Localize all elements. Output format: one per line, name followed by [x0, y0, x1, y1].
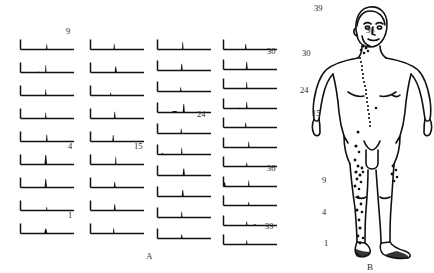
trace-svg [88, 33, 146, 52]
panel-b-body-diagram: 3936302415941B [300, 0, 434, 273]
trace-svg [155, 138, 213, 157]
trace-svg [221, 111, 279, 130]
neck-left [358, 46, 362, 58]
trace-svg [221, 131, 279, 150]
lesion-dot [358, 219, 361, 222]
main-peak-1 [246, 240, 248, 244]
lesion-dot [363, 81, 365, 83]
trace-panel-2-4 [88, 102, 146, 121]
trace-panel-3-8 [155, 180, 213, 199]
trace-svg [155, 75, 213, 94]
trace-svg [155, 201, 213, 220]
eyebrow-left [364, 23, 371, 24]
groin-line [364, 141, 380, 150]
main-peak-1 [246, 61, 248, 69]
main-peak-1 [113, 228, 115, 233]
trace-panel-3-10 [155, 222, 213, 241]
lesion-dot [360, 49, 363, 52]
lesion-dot [358, 188, 361, 191]
trace-svg [155, 33, 213, 52]
main-peak-1 [182, 42, 184, 49]
main-peak-1 [115, 67, 117, 73]
trace-svg [18, 56, 76, 75]
lesion-dot [368, 113, 370, 115]
lesion-dot [369, 121, 371, 123]
lesion-dot [365, 89, 367, 91]
lesion-dot [357, 235, 360, 238]
body-site-label-1: 1 [324, 238, 328, 248]
lesion-dot [362, 237, 365, 240]
lesion-dot [361, 167, 364, 170]
trace-column-4: 303639 [221, 0, 287, 273]
leg-right-inner [376, 170, 381, 243]
trace-svg [18, 79, 76, 98]
main-peak-1 [181, 148, 183, 155]
main-peak-1 [181, 64, 183, 71]
figure-root: 9411524303639 [0, 0, 434, 273]
lesion-dot [359, 242, 362, 245]
body-site-label-9: 9 [322, 175, 326, 185]
lesion-dot [363, 52, 366, 55]
minor-peak-1 [161, 153, 164, 154]
trace-label-36: 36 [267, 164, 276, 173]
trace-panel-4-4 [221, 92, 279, 111]
body-site-label-15: 15 [312, 108, 321, 118]
panel-a-caption: A [146, 251, 153, 261]
lesion-dot [357, 196, 360, 199]
lesion-dot [354, 144, 357, 147]
lesion-dot [368, 117, 370, 119]
trace-panel-1-7 [18, 171, 76, 190]
main-peak-1 [246, 221, 248, 225]
lesion-dot [359, 57, 361, 59]
lesion-dot [354, 159, 357, 162]
lesion-dot [360, 203, 363, 206]
lesion-dot [362, 77, 364, 79]
trace-svg [221, 189, 279, 208]
lesion-dot [365, 47, 368, 50]
minor-peak-1 [254, 223, 256, 225]
trace-svg [221, 72, 279, 91]
leg-left-outer [350, 164, 357, 242]
body-outline-svg [300, 0, 434, 273]
trace-svg [88, 217, 146, 236]
lesion-dot [356, 209, 359, 212]
lesion-dot [369, 125, 371, 127]
main-peak-1 [45, 113, 47, 119]
lesion-dot [395, 169, 398, 172]
body-site-label-39: 39 [314, 3, 323, 13]
main-peak-1 [110, 92, 111, 95]
trace-panel-2-9 [88, 217, 146, 236]
main-peak-1 [245, 123, 247, 128]
minor-peak-1 [236, 107, 242, 108]
trace-panel-3-1 [155, 33, 213, 52]
main-peak-1 [180, 129, 182, 134]
trace-svg [155, 117, 213, 136]
main-peak-1 [115, 157, 116, 165]
trace-panel-3-3 [155, 75, 213, 94]
genital-outline [366, 150, 378, 169]
lesion-dot [367, 105, 369, 107]
trace-svg [18, 171, 76, 190]
knee-right [380, 197, 390, 199]
trace-panel-3-7 [155, 159, 213, 178]
main-peak-1 [112, 135, 114, 141]
main-peak-1 [46, 135, 48, 142]
trace-svg [155, 159, 213, 178]
trace-label-15: 15 [134, 142, 143, 151]
lesion-dot [365, 93, 367, 95]
lesion-dot [361, 211, 364, 214]
pec-left [348, 92, 364, 96]
main-peak-1 [45, 65, 47, 73]
torso-right [396, 74, 411, 143]
trace-panel-3-5 [155, 117, 213, 136]
main-peak-1 [182, 190, 184, 196]
lesion-dot [362, 45, 365, 48]
trace-panel-2-1 [88, 33, 146, 52]
main-peak-1 [114, 112, 116, 119]
main-peak-1 [114, 182, 116, 188]
trace-column-3: 24 [155, 0, 221, 273]
lesion-dot [367, 109, 369, 111]
main-peak-1 [44, 229, 47, 234]
main-peak-1 [180, 87, 182, 91]
minor-peak-1 [171, 111, 179, 113]
